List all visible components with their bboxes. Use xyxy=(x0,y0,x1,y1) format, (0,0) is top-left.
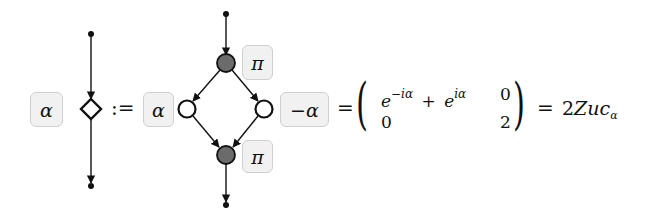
result-subscript: α xyxy=(610,109,617,122)
equals-sign-1: = xyxy=(337,96,354,120)
define-symbol: := xyxy=(111,96,135,120)
edge-top-to-left-arrow xyxy=(193,70,220,101)
rhs-output-terminal-dot xyxy=(223,202,229,208)
bottom-node-pi-label: π xyxy=(242,140,273,173)
exp-base-1: e xyxy=(381,91,391,111)
matrix-r2c1: 0 xyxy=(381,112,392,132)
matrix-right-paren: ) xyxy=(513,76,525,132)
graph-svg xyxy=(0,0,659,220)
equals-sign-2: = xyxy=(537,96,554,120)
edge-left-to-bottom-arrow xyxy=(193,116,219,147)
plus-sign: + xyxy=(421,91,435,111)
left-node-phase-label: α xyxy=(143,92,174,127)
exp-power-2: iα xyxy=(454,87,466,101)
lhs-phase-label: α xyxy=(30,92,63,127)
matrix-r1c1: e−iα + eiα xyxy=(381,84,466,111)
output-terminal-dot xyxy=(88,183,94,189)
matrix-r2c2: 2 xyxy=(500,112,511,132)
diagram-canvas: α := α π −α π = ( e−iα + eiα 0 0 2 ) = 2… xyxy=(0,0,659,220)
top-node-pi-label: π xyxy=(242,45,273,80)
right-white-node-icon xyxy=(256,101,273,118)
diamond-node-icon xyxy=(81,99,101,119)
right-node-phase-label: −α xyxy=(280,92,329,127)
exp-power-1: −iα xyxy=(391,87,413,101)
result-coefficient: 2 xyxy=(562,97,574,119)
left-white-node-icon xyxy=(179,101,196,118)
matrix-left-paren: ( xyxy=(356,76,368,132)
top-gray-node-icon xyxy=(217,54,235,72)
result-operator: Zuc xyxy=(574,97,610,119)
lhs-graph xyxy=(81,31,101,189)
result-expression: 2Zucα xyxy=(562,97,618,122)
exp-base-2: e xyxy=(444,91,454,111)
bottom-gray-node-icon xyxy=(217,146,235,164)
matrix-r1c2: 0 xyxy=(500,84,511,104)
rhs-graph xyxy=(179,11,273,208)
